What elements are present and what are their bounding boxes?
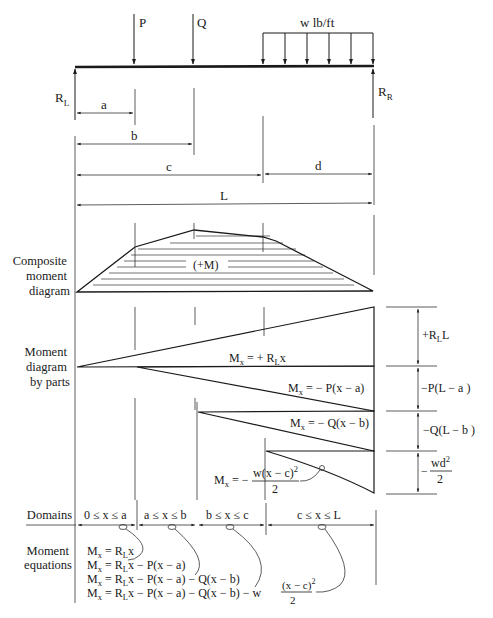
side-label-p: −P(L − a ) [421,381,470,395]
dim-label-L: L [220,188,228,203]
svg-text:(x − c)2: (x − c)2 [282,577,315,592]
svg-text:Mx = RLx − P(x − a) − Q(x − b): Mx = RLx − P(x − a) − Q(x − b) − w [87,586,261,602]
part-eq-q: Mx = − Q(x − b) [290,416,369,432]
beam [75,66,374,67]
domain-2: a ≤ x ≤ b [144,508,187,522]
svg-text:2: 2 [290,594,296,606]
moment-by-parts: Mx = + RLx Mx = − P(x − a) Mx = − Q(x − … [77,307,475,500]
dim-label-b: b [131,128,138,143]
side-label-w: − wd2 2 [421,454,452,486]
reaction-label-right: RR [378,84,393,102]
side-label-reaction: +RLL [422,328,449,344]
composite-moment-diagram: (+M) [77,215,374,292]
dim-label-d: d [315,158,322,173]
part-eq-p: Mx = − P(x − a) [288,381,364,397]
side-label-q: −Q(L − b ) [423,423,475,437]
domain-3: b ≤ x ≤ c [206,508,249,522]
part-eq-w: Mx = − w(x − c)2 2 [214,464,299,496]
part-reaction-triangle [77,307,374,367]
composite-sign-label: (+M) [193,258,218,272]
beam-moment-diagram: P Q w lb/ft RL RR a b [0,0,493,618]
svg-text:w(x − c)2: w(x − c)2 [253,464,298,480]
svg-text:−: − [421,464,428,478]
distributed-load [263,33,373,64]
svg-text:2: 2 [437,472,443,486]
reaction-label-left: RL [55,90,69,108]
dim-L [77,203,372,205]
parts-label: Moment diagram by parts [25,345,71,389]
domains-label: Domains [27,508,72,522]
composite-label: Composite moment diagram [13,254,71,298]
part-eq-reaction: Mx = + RLx [229,351,286,367]
moment-equations-label: Moment equations [24,544,72,572]
dim-label-c: c [166,159,172,174]
load-label-q: Q [197,15,207,30]
domain-4: c ≤ x ≤ L [297,508,341,522]
domain-1: 0 ≤ x ≤ a [84,508,127,522]
svg-text:wd2: wd2 [431,454,450,470]
moment-equations: Mx = RLx Mx = RLx − P(x − a) Mx = RLx − … [87,544,315,606]
load-label-p: P [139,15,146,30]
dim-label-a: a [101,97,107,112]
svg-text:Mx = −: Mx = − [214,473,249,489]
svg-text:2: 2 [272,482,278,496]
distributed-load-label: w lb/ft [300,15,335,30]
